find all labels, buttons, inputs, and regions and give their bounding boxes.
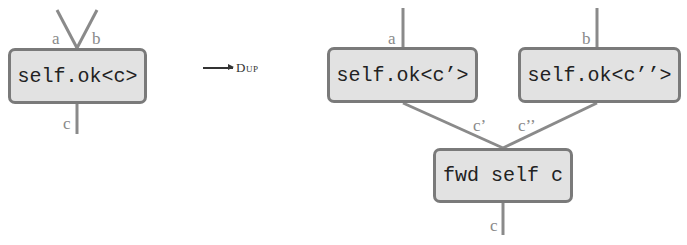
label-c-left: c bbox=[63, 115, 71, 132]
wire-a-left bbox=[57, 10, 77, 48]
label-b-left: b bbox=[92, 30, 101, 47]
wire-c-prime bbox=[403, 103, 503, 148]
label-a-left: a bbox=[52, 30, 60, 47]
node-self-ok-c-prime: self.ok<c’> bbox=[327, 47, 478, 103]
node-self-ok-c: self.ok<c> bbox=[8, 48, 147, 104]
label-c-double-prime: c’’ bbox=[518, 117, 536, 134]
rule-name: Dup bbox=[236, 60, 258, 76]
label-c-right: c bbox=[490, 217, 498, 234]
label-c-prime: c’ bbox=[473, 117, 486, 134]
node-self-ok-c-double-prime: self.ok<c’’> bbox=[518, 47, 681, 103]
label-a-right: a bbox=[388, 30, 396, 47]
label-b-right: b bbox=[582, 30, 591, 47]
arrow-icon bbox=[203, 67, 233, 68]
rewrite-arrow: Dup bbox=[203, 60, 258, 76]
node-fwd-self-c: fwd self c bbox=[433, 148, 573, 203]
